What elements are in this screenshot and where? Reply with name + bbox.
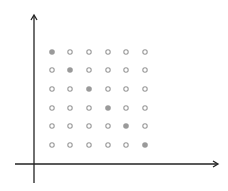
dot-grid-diagram bbox=[0, 0, 228, 191]
hollow-point bbox=[106, 124, 110, 128]
axes bbox=[15, 15, 218, 183]
hollow-point bbox=[68, 50, 72, 54]
hollow-point bbox=[68, 106, 72, 110]
hollow-point bbox=[106, 143, 110, 147]
filled-point bbox=[49, 49, 55, 55]
filled-point bbox=[123, 123, 129, 129]
hollow-point bbox=[143, 68, 147, 72]
hollow-point bbox=[68, 124, 72, 128]
hollow-point bbox=[87, 50, 91, 54]
hollow-point bbox=[50, 87, 54, 91]
hollow-point bbox=[124, 50, 128, 54]
hollow-point bbox=[143, 106, 147, 110]
hollow-point bbox=[50, 143, 54, 147]
hollow-point bbox=[106, 50, 110, 54]
hollow-point bbox=[87, 143, 91, 147]
hollow-point bbox=[143, 50, 147, 54]
hollow-point bbox=[143, 87, 147, 91]
filled-point bbox=[67, 67, 73, 73]
hollow-point bbox=[50, 106, 54, 110]
hollow-point bbox=[106, 87, 110, 91]
hollow-point bbox=[50, 124, 54, 128]
filled-point bbox=[142, 142, 148, 148]
hollow-point bbox=[50, 68, 54, 72]
hollow-point bbox=[124, 143, 128, 147]
filled-point bbox=[86, 86, 92, 92]
hollow-point bbox=[143, 124, 147, 128]
point-grid bbox=[49, 49, 148, 148]
hollow-point bbox=[87, 106, 91, 110]
hollow-point bbox=[124, 68, 128, 72]
hollow-point bbox=[124, 87, 128, 91]
hollow-point bbox=[68, 87, 72, 91]
hollow-point bbox=[87, 124, 91, 128]
hollow-point bbox=[124, 106, 128, 110]
hollow-point bbox=[106, 68, 110, 72]
filled-point bbox=[105, 105, 111, 111]
hollow-point bbox=[87, 68, 91, 72]
hollow-point bbox=[68, 143, 72, 147]
